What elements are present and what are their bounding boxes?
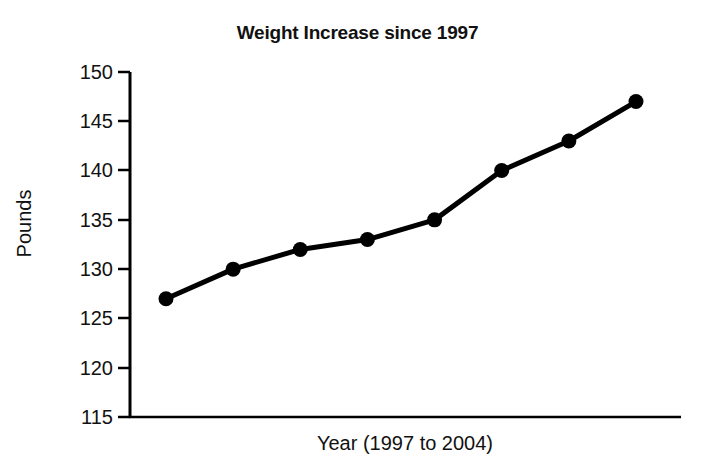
plot-area — [0, 0, 715, 469]
data-point-1998 — [226, 262, 241, 277]
y-axis-ticks — [118, 72, 130, 417]
data-point-2002 — [494, 163, 509, 178]
x-axis-label: Year (1997 to 2004) — [130, 432, 680, 455]
data-point-1999 — [293, 242, 308, 257]
data-point-2003 — [561, 134, 576, 149]
chart-figure: Weight Increase since 1997 Pounds 150 14… — [0, 0, 715, 469]
data-point-2000 — [360, 232, 375, 247]
data-point-2001 — [427, 212, 442, 227]
data-point-1997 — [159, 291, 174, 306]
data-point-2004 — [629, 94, 644, 109]
data-point-markers — [159, 94, 644, 306]
